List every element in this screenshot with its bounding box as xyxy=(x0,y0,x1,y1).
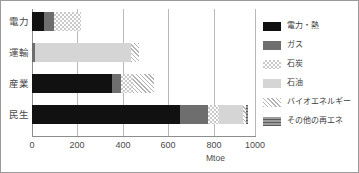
bar-sangyo xyxy=(32,74,154,93)
legend-swatch-other-icon xyxy=(263,117,281,126)
bar-minsei xyxy=(32,105,248,124)
y-axis-labels: 電力 運輸 産業 民生 xyxy=(1,9,29,136)
legend-label-gas: ガス xyxy=(287,41,303,49)
segment-bio xyxy=(133,74,153,93)
legend-item-bio: バイオエネルギー xyxy=(263,93,358,111)
segment-coal xyxy=(54,12,81,31)
legend-item-oil: 石油 xyxy=(263,74,358,92)
legend-label-other: その他の再エネ xyxy=(287,117,343,125)
legend-label-bio: バイオエネルギー xyxy=(287,98,351,106)
segment-gas xyxy=(44,12,54,31)
segment-gas xyxy=(180,105,208,124)
y-label-minsei: 民生 xyxy=(1,110,29,120)
segment-elec xyxy=(32,74,112,93)
y-label-sangyo: 産業 xyxy=(1,79,29,89)
legend-label-oil: 石油 xyxy=(287,79,303,87)
legend-swatch-elec-icon xyxy=(263,22,281,31)
segment-oil xyxy=(35,43,131,62)
y-label-unyu: 運輸 xyxy=(1,48,29,58)
gridline-1000 xyxy=(255,9,256,136)
legend-swatch-bio-icon xyxy=(263,98,281,107)
legend-label-coal: 石炭 xyxy=(287,60,303,68)
segment-elec xyxy=(32,105,180,124)
x-tick-0: 0 xyxy=(29,140,34,150)
x-axis-line xyxy=(32,136,256,137)
legend-swatch-coal-icon xyxy=(263,60,281,69)
legend: 電力・熱 ガス 石炭 石油 バイオエネルギー その他の再エネ xyxy=(263,17,358,131)
y-label-denryoku: 電力 xyxy=(1,17,29,27)
legend-item-other: その他の再エネ xyxy=(263,112,358,130)
legend-swatch-oil-icon xyxy=(263,79,281,88)
legend-item-elec: 電力・熱 xyxy=(263,17,358,35)
x-tick-1000: 1000 xyxy=(245,140,265,150)
plot-area xyxy=(32,9,255,136)
x-tick-200: 200 xyxy=(69,140,84,150)
x-tick-600: 600 xyxy=(160,140,175,150)
x-tick-800: 800 xyxy=(206,140,221,150)
legend-item-coal: 石炭 xyxy=(263,55,358,73)
legend-swatch-gas-icon xyxy=(263,41,281,50)
x-tick-400: 400 xyxy=(115,140,130,150)
segment-elec xyxy=(32,12,44,31)
segment-bio xyxy=(131,43,140,62)
x-axis-unit-label: Mtoe xyxy=(206,153,225,163)
bar-unyu xyxy=(32,43,139,62)
segment-gas xyxy=(112,74,121,93)
bar-denryoku xyxy=(32,12,81,31)
legend-item-gas: ガス xyxy=(263,36,358,54)
segment-oil xyxy=(219,105,244,124)
energy-consumption-bar-chart: 電力 運輸 産業 民生 0 xyxy=(0,0,359,173)
legend-label-elec: 電力・熱 xyxy=(287,22,319,30)
segment-other xyxy=(246,105,248,124)
segment-coal xyxy=(121,74,133,93)
segment-coal xyxy=(208,105,219,124)
